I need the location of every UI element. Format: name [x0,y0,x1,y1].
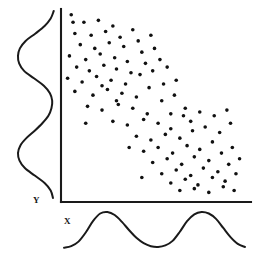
scatter-dot [180,163,184,167]
scatter-dot [91,93,95,97]
scatter-dot [196,183,200,187]
axes-group [61,9,251,202]
scatter-dot [147,86,151,90]
scatter-dot [160,172,164,176]
scatter-dot [145,112,149,116]
scatter-dot [182,114,186,118]
scatter-dot [86,105,90,109]
scatter-dot [153,47,157,51]
scatter-dot [151,161,155,165]
scatter-dot [191,129,195,133]
scatter-dot [122,45,126,49]
scatter-dot [178,189,182,193]
x-marginal-density-curve [64,212,245,248]
scatter-dot [111,120,115,124]
scatter-dot [185,144,189,148]
scatter-dot [165,157,169,161]
scatter-dot [229,121,233,125]
scatter-dot [207,191,211,195]
statistics-figure: Y X [0,0,260,261]
scatter-dot [193,155,197,159]
scatter-dot [156,146,160,150]
scatter-dot [135,95,139,99]
scatter-dot [238,157,242,161]
x-marginal-density-group [64,212,245,248]
scatter-dot [136,39,140,43]
scatter-dot [220,151,224,155]
scatter-dot [84,58,88,62]
scatter-dot [212,114,216,118]
scatter-dot [100,108,104,112]
figure-canvas: Y X [0,0,260,261]
scatter-dot [142,149,146,153]
x-axis-label: X [64,216,71,226]
scatter-dot [164,133,168,137]
scatter-dot [202,166,206,170]
scatter-dot [144,62,148,66]
scatter-dot [80,80,84,84]
scatter-dot [126,123,130,127]
scatter-dot [211,140,215,144]
scatter-dot [178,136,182,140]
scatter-dot [189,120,193,124]
scatter-dot [75,65,79,69]
scatter-dot [234,172,238,176]
scatter-dot [115,67,119,71]
scatter-dot [193,187,197,191]
scatter-dot [111,24,115,28]
scatter-dot [117,103,121,107]
scatter-dot [113,56,117,60]
scatter-dot [140,50,144,54]
scatter-dot [107,41,111,45]
scatter-dot [102,63,106,67]
scatter-dot [198,110,202,114]
scatter-dot [129,71,133,75]
scatter-dot [232,189,236,193]
scatter-dot [174,168,178,172]
scatter-dot [69,13,73,17]
scatter-dot [198,148,202,152]
scatter-dot [84,121,88,125]
scatter-dot [98,52,102,56]
scatter-dot [183,106,187,110]
scatter-dot [78,43,82,47]
scatter-dot [71,20,75,24]
scatter-dot [225,108,229,112]
scatter-dot [169,127,173,131]
y-marginal-density-curve [18,11,54,198]
scatter-dot [189,174,193,178]
y-axis-label: Y [33,195,40,205]
scatter-dot [135,134,139,138]
scatter-dot [104,30,108,34]
scatter-dot [106,88,110,92]
scatter-dot [149,34,153,38]
scatter-dot [140,176,144,180]
scatter-dot [169,112,173,116]
scatter-dot [207,159,211,163]
scatter-dot [160,99,164,103]
scatter-dot [118,35,122,39]
scatter-dot [231,146,235,150]
scatter-dot [165,65,169,69]
scatter-dot [221,185,225,189]
scatter-dot [216,170,220,174]
scatter-dot [171,151,175,155]
scatter-dot [120,91,124,95]
scatter-dot [95,75,99,79]
scatter-dot [126,60,130,64]
scatter-dot [82,20,86,24]
scatter-dot [68,54,72,58]
scatter-dot [115,99,119,103]
scatter-dot [183,178,187,182]
scatter-dot [173,93,177,97]
scatter-dot [227,163,231,167]
scatter-dot [223,179,227,183]
scatter-dot [138,73,142,77]
scatter-dot [100,84,104,88]
scatter-dot [73,32,77,36]
scatter-dot [203,125,207,129]
scatter-dot [151,69,155,73]
scatter-dot [97,19,101,23]
scatter-dot [162,82,166,86]
scatter-dot [149,138,153,142]
